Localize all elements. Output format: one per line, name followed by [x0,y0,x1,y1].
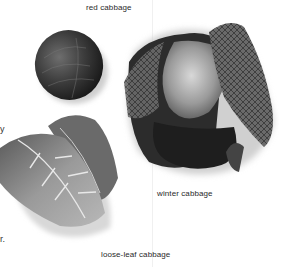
winter-cabbage-image [114,12,279,187]
book-page: y r. [0,0,283,267]
caption-red-cabbage: red cabbage [86,3,132,12]
caption-loose-leaf-cabbage: loose-leaf cabbage [101,250,170,259]
caption-winter-cabbage: winter cabbage [157,189,213,198]
red-cabbage-image [24,18,114,108]
loose-leaf-cabbage-image [0,108,125,248]
